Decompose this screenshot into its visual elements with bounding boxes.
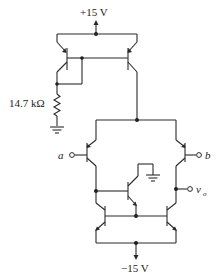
diff-pair-left: a xyxy=(58,140,98,193)
npn-load-right xyxy=(167,189,177,243)
reference-transistor xyxy=(55,56,84,86)
tail-bus xyxy=(96,120,176,140)
circuit-schematic: +15 V 14.7 kΩ xyxy=(0,0,222,280)
output-terminal[interactable] xyxy=(188,187,193,192)
ground-symbol-left xyxy=(50,127,64,133)
negative-supply: −15 V xyxy=(96,241,176,274)
pnp-mirror-left xyxy=(57,34,82,70)
output-node: v o xyxy=(176,183,207,198)
output-subscript: o xyxy=(203,190,207,198)
input-a-label: a xyxy=(58,149,64,161)
input-a-terminal[interactable] xyxy=(70,153,75,158)
negative-supply-label: −15 V xyxy=(121,262,149,274)
ground-symbol-right xyxy=(146,175,160,181)
input-b-terminal[interactable] xyxy=(197,153,202,158)
positive-supply-label: +15 V xyxy=(80,6,108,18)
resistor: 14.7 kΩ xyxy=(9,84,60,126)
circuit-diagram: +15 V 14.7 kΩ xyxy=(0,0,222,280)
diff-pair-right: b xyxy=(174,140,211,191)
resistor-label: 14.7 kΩ xyxy=(9,97,45,109)
output-label: v xyxy=(196,183,201,195)
positive-supply: +15 V xyxy=(57,6,137,36)
input-b-label: b xyxy=(205,149,211,161)
pnp-mirror-right xyxy=(82,34,139,122)
